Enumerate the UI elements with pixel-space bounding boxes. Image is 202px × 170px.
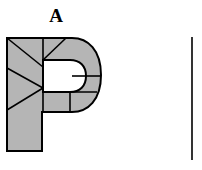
letter-p-figure	[0, 0, 202, 170]
figure-screenshot: A	[0, 0, 202, 170]
letter-p-fill	[7, 38, 101, 151]
